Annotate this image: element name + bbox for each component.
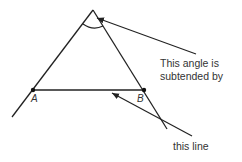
angle-annotation-line1: This angle is [160, 57, 219, 69]
angle-annotation-line2: subtended by [160, 70, 223, 82]
point-a-label: A [31, 93, 38, 104]
angle-arc [83, 24, 103, 28]
right-side-line [93, 10, 167, 129]
left-side-line [12, 10, 93, 117]
line-annotation: this line [173, 140, 209, 152]
point-b-label: B [137, 93, 144, 104]
point-a-dot [31, 88, 35, 92]
point-b-dot [142, 88, 146, 92]
subtended-angle-diagram: A B This angle is subtended by this line [0, 0, 242, 162]
angle-pointer-arrow [97, 18, 196, 54]
line-pointer-arrow [112, 93, 192, 136]
